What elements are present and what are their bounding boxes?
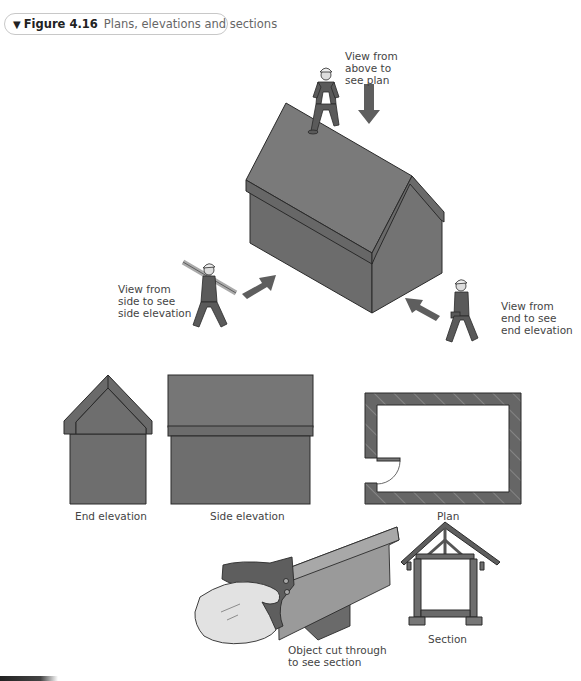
label-view-above: View from above to see plan bbox=[345, 50, 398, 86]
section-drawing bbox=[401, 522, 500, 625]
label-view-end: View from end to see end elevation bbox=[501, 300, 573, 336]
end-elevation-drawing bbox=[64, 375, 152, 504]
worker-on-roof-icon bbox=[308, 68, 339, 134]
label-end-elevation: End elevation bbox=[75, 510, 147, 522]
arrow-end-icon bbox=[405, 298, 440, 321]
label-side-elevation: Side elevation bbox=[210, 510, 285, 522]
page-edge-bar bbox=[0, 676, 58, 681]
label-object-cut: Object cut through to see section bbox=[288, 644, 387, 668]
isometric-house bbox=[246, 103, 444, 313]
saw-cut-drawing bbox=[195, 527, 399, 644]
arrow-side-icon bbox=[242, 275, 276, 299]
side-elevation-drawing bbox=[168, 375, 313, 504]
label-plan: Plan bbox=[437, 510, 459, 522]
plan-drawing bbox=[365, 393, 521, 504]
arrow-down-icon bbox=[358, 84, 380, 124]
figure-illustration bbox=[0, 0, 581, 681]
worker-with-toolbox-icon bbox=[446, 280, 478, 342]
label-section: Section bbox=[428, 633, 467, 645]
label-view-side: View from side to see side elevation bbox=[118, 283, 191, 319]
